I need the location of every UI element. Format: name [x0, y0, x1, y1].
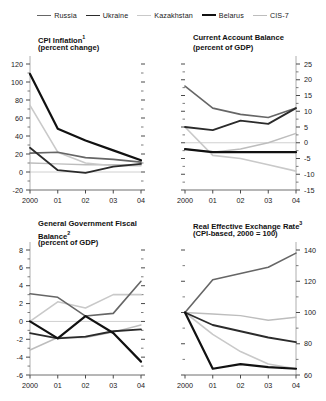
chart-canvas-real-effective-exchange-rate: 6080100120140200001020304 — [163, 216, 326, 401]
y-tick-label: 4 — [19, 281, 23, 290]
y-tick-label: -20 — [13, 186, 23, 195]
chart-subtitle: (CPI-based, 2000 = 100) — [193, 229, 278, 238]
legend-label: Russia — [54, 11, 77, 20]
chart-subtitle: (percent of GDP) — [38, 238, 98, 247]
y-tick-label: 6 — [19, 263, 23, 272]
y-tick-label: 5 — [304, 123, 308, 132]
x-tick-label: 01 — [54, 381, 62, 390]
x-tick-label: 2000 — [177, 381, 193, 390]
legend-label: Ukraine — [103, 11, 128, 20]
x-tick-label: 02 — [237, 196, 245, 205]
series-line-ukraine — [185, 108, 296, 130]
y-tick-label: -4 — [17, 353, 23, 362]
legend-label: Kazakhstan — [154, 11, 193, 20]
x-tick-label: 02 — [82, 196, 90, 205]
chart-panel-real-effective-exchange-rate: 6080100120140200001020304Real Effective … — [163, 216, 326, 401]
y-tick-label: 0 — [19, 317, 23, 326]
y-tick-label: 10 — [304, 107, 312, 116]
x-tick-label: 02 — [82, 381, 90, 390]
chart-title: Current Account Balance — [193, 33, 284, 42]
y-tick-label: 80 — [15, 96, 23, 105]
x-tick-label: 04 — [137, 196, 145, 205]
legend-label: Belarus — [219, 11, 244, 20]
legend-item-belarus: Belarus — [202, 11, 244, 20]
y-tick-label: 20 — [15, 150, 23, 159]
legend-swatch-icon — [37, 15, 51, 16]
x-tick-label: 03 — [109, 196, 117, 205]
y-tick-label: 140 — [304, 246, 316, 255]
y-tick-label: 40 — [15, 132, 23, 141]
chart-legend: RussiaUkraineKazakhstanBelarusCIS-7 — [0, 0, 326, 30]
y-tick-label: 0 — [19, 168, 23, 177]
x-tick-label: 04 — [292, 381, 300, 390]
y-tick-label: -6 — [17, 371, 23, 380]
y-tick-label: -15 — [304, 186, 314, 195]
chart-canvas-cpi-inflation: -20020406080100120200001020304 — [0, 30, 163, 216]
legend-swatch-icon — [137, 15, 151, 16]
x-tick-label: 01 — [209, 196, 217, 205]
legend-label: CIS-7 — [270, 11, 289, 20]
y-tick-label: -10 — [304, 170, 314, 179]
series-line-russia — [185, 253, 296, 312]
x-tick-label: 01 — [209, 381, 217, 390]
y-tick-label: 25 — [304, 60, 312, 69]
legend-item-russia: Russia — [37, 11, 77, 20]
chart-subtitle: (percent of GDP) — [193, 43, 253, 52]
x-tick-label: 02 — [237, 381, 245, 390]
chart-panel-fiscal-balance: -6-4-202468200001020304General Governmen… — [0, 216, 163, 401]
title-footnote-marker: 3 — [299, 220, 302, 226]
y-tick-label: 60 — [304, 371, 312, 380]
chart-panel-cpi-inflation: -20020406080100120200001020304CPI Inflat… — [0, 30, 163, 216]
x-tick-label: 2000 — [22, 196, 38, 205]
title-footnote-marker: 2 — [67, 230, 70, 236]
x-tick-label: 03 — [109, 381, 117, 390]
legend-item-cis-7: CIS-7 — [253, 11, 289, 20]
chart-grid: -20020406080100120200001020304CPI Inflat… — [0, 30, 326, 401]
chart-panel-current-account-balance: -15-10-50510152025200001020304Current Ac… — [163, 30, 326, 216]
y-tick-label: 20 — [304, 75, 312, 84]
y-tick-label: 8 — [19, 246, 23, 255]
series-line-ukraine — [185, 313, 296, 343]
chart-canvas-current-account-balance: -15-10-50510152025200001020304 — [163, 30, 326, 216]
series-line-kazakhstan — [30, 105, 141, 165]
y-tick-label: 80 — [304, 339, 312, 348]
y-tick-label: 100 — [11, 78, 23, 87]
chart-subtitle: (percent change) — [38, 43, 99, 52]
legend-item-kazakhstan: Kazakhstan — [137, 11, 193, 20]
x-tick-label: 2000 — [22, 381, 38, 390]
x-tick-label: 04 — [137, 381, 145, 390]
series-line-belarus — [30, 74, 141, 160]
y-tick-label: -2 — [17, 335, 23, 344]
y-tick-label: 60 — [15, 114, 23, 123]
y-tick-label: 0 — [304, 138, 308, 147]
title-footnote-marker: 1 — [82, 34, 85, 40]
y-tick-label: 100 — [304, 308, 316, 317]
legend-swatch-icon — [86, 15, 100, 16]
series-line-belarus — [30, 316, 141, 362]
x-tick-label: 03 — [264, 196, 272, 205]
y-tick-label: 120 — [304, 277, 316, 286]
legend-item-ukraine: Ukraine — [86, 11, 128, 20]
y-tick-label: 2 — [19, 299, 23, 308]
x-tick-label: 01 — [54, 196, 62, 205]
x-tick-label: 2000 — [177, 196, 193, 205]
legend-swatch-icon — [253, 15, 267, 16]
x-tick-label: 04 — [292, 196, 300, 205]
legend-swatch-icon — [202, 14, 216, 16]
chart-title: General Government Fiscal — [38, 219, 137, 228]
y-tick-label: -5 — [304, 154, 310, 163]
y-tick-label: 15 — [304, 91, 312, 100]
x-tick-label: 03 — [264, 381, 272, 390]
y-tick-label: 120 — [11, 60, 23, 69]
series-line-russia — [185, 86, 296, 118]
series-line-russia — [30, 281, 141, 316]
